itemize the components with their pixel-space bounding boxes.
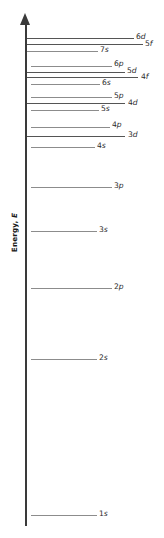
energy-level-line-4f <box>27 77 138 78</box>
energy-level-label-3d: 3d <box>128 131 138 139</box>
energy-level-label-2s: 2s <box>99 354 108 362</box>
energy-level-line-1s <box>31 515 97 516</box>
energy-level-line-3d <box>27 136 125 137</box>
energy-level-diagram: Energy, E 6d5f7s6p5d4f6s5p4d5s4p3d4s3p3s… <box>0 0 164 538</box>
energy-level-line-7s <box>27 51 98 52</box>
energy-level-line-3s <box>31 231 97 232</box>
energy-level-line-6s <box>31 84 100 85</box>
energy-level-line-4s <box>31 147 95 148</box>
energy-level-line-6p <box>31 66 112 67</box>
energy-level-line-6d <box>27 38 134 39</box>
energy-level-label-4f: 4f <box>141 73 149 81</box>
energy-level-line-4d <box>27 103 125 104</box>
energy-level-line-5d <box>27 72 125 73</box>
energy-level-label-5d: 5d <box>127 67 137 75</box>
energy-level-line-4p <box>31 127 110 128</box>
energy-level-label-5p: 5p <box>114 92 124 100</box>
energy-level-label-5f: 5f <box>145 40 153 48</box>
energy-level-line-5s <box>31 110 99 111</box>
energy-level-label-3p: 3p <box>114 182 124 190</box>
energy-level-line-3p <box>31 187 112 188</box>
energy-level-label-4p: 4p <box>112 121 122 129</box>
energy-level-line-5f <box>27 44 143 45</box>
energy-axis-label-text: Energy, <box>10 218 19 252</box>
energy-axis-label-symbol: E <box>10 213 19 218</box>
energy-level-label-6p: 6p <box>114 60 124 68</box>
energy-level-label-6s: 6s <box>102 79 111 87</box>
energy-axis-label: Energy, E <box>10 193 19 273</box>
energy-level-line-5p <box>31 97 112 98</box>
energy-level-line-2s <box>31 359 97 360</box>
energy-level-label-4d: 4d <box>128 99 138 107</box>
energy-axis-line <box>25 22 27 526</box>
energy-level-label-3s: 3s <box>99 226 108 234</box>
energy-level-label-2p: 2p <box>114 283 124 291</box>
energy-level-label-1s: 1s <box>99 510 108 518</box>
energy-level-line-2p <box>31 288 112 289</box>
energy-level-label-4s: 4s <box>97 142 106 150</box>
energy-level-label-7s: 7s <box>100 46 109 54</box>
energy-level-label-5s: 5s <box>101 105 110 113</box>
